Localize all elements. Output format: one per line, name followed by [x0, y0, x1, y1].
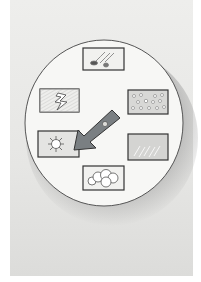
tile-sunny [38, 131, 79, 157]
tile-snow [128, 90, 168, 114]
tile-cloudy [83, 166, 124, 190]
weather-dial-illustration [0, 0, 201, 282]
pointer-rivet [102, 121, 107, 126]
sun-icon [48, 136, 64, 152]
tile-rain [128, 134, 168, 160]
tile-lightning [40, 89, 79, 112]
tile-windy-hail [83, 48, 124, 70]
